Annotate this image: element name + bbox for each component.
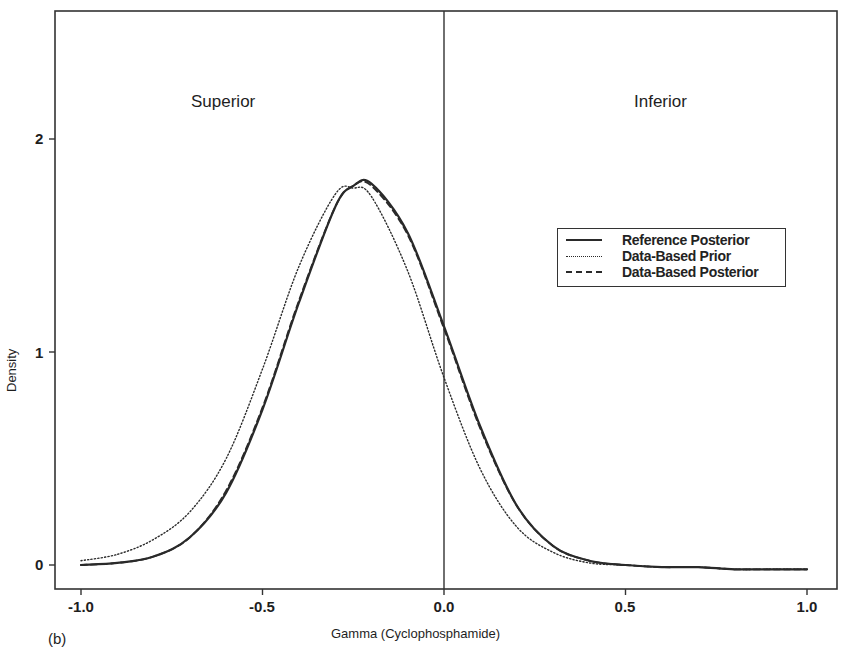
y-tick-label-0: 0 bbox=[35, 556, 43, 573]
x-tick-label-1: 1.0 bbox=[797, 598, 818, 615]
annotation-inferior: Inferior bbox=[634, 92, 687, 112]
solid-line-swatch-icon bbox=[566, 239, 602, 241]
x-tick-label-05: 0.5 bbox=[615, 598, 636, 615]
plot-frame bbox=[55, 11, 837, 589]
legend-item-data-based-prior: Data-Based Prior bbox=[566, 249, 731, 263]
panel-label: (b) bbox=[48, 630, 66, 647]
y-tick-label-2: 2 bbox=[35, 130, 43, 147]
y-tick-label-1: 1 bbox=[35, 344, 43, 361]
legend-label: Reference Posterior bbox=[622, 232, 749, 248]
dashed-line-swatch-icon bbox=[566, 271, 602, 273]
legend-label: Data-Based Posterior bbox=[622, 264, 758, 280]
y-axis-title: Density bbox=[4, 349, 19, 392]
legend-item-reference-posterior: Reference Posterior bbox=[566, 233, 749, 247]
x-tick-label-neg05: -0.5 bbox=[249, 598, 275, 615]
x-tick-label-neg1: -1.0 bbox=[68, 598, 94, 615]
axis-ticks bbox=[49, 139, 807, 595]
plot-border bbox=[55, 11, 837, 589]
x-tick-label-0: 0.0 bbox=[434, 598, 455, 615]
legend-item-data-based-posterior: Data-Based Posterior bbox=[566, 265, 758, 279]
density-plot bbox=[0, 0, 849, 654]
dotted-line-swatch-icon bbox=[566, 256, 602, 257]
annotation-superior: Superior bbox=[191, 92, 255, 112]
legend-label: Data-Based Prior bbox=[622, 248, 731, 264]
x-axis-title: Gamma (Cyclophosphamide) bbox=[331, 626, 500, 641]
legend: Reference Posterior Data-Based Prior Dat… bbox=[557, 228, 786, 287]
